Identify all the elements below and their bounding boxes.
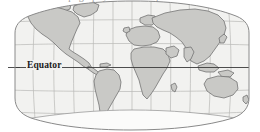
equator-label: Equator (26, 60, 62, 70)
figure-page: the earth's topography. On the map is th… (0, 0, 260, 132)
world-map-figure: Equator (0, 0, 260, 132)
europe-landmass (126, 26, 160, 46)
